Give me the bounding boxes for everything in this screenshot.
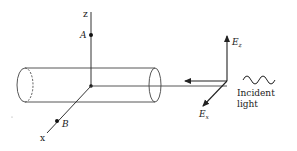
cylinder (17, 68, 161, 102)
incident-light-label-line1: Incident (237, 88, 275, 98)
incident-light-label-line2: light (237, 99, 258, 109)
x-axis-label: x (40, 133, 45, 143)
z-axis-label: z (83, 9, 88, 19)
speck (11, 116, 12, 117)
ez-label: Ez (231, 37, 243, 48)
point-a (89, 33, 93, 37)
ex-arrow (203, 81, 227, 106)
point-b (55, 119, 59, 123)
wave-icon (243, 76, 275, 84)
x-axis (47, 86, 91, 133)
point-a-label: A (79, 30, 87, 40)
light-scattering-diagram: z A x B Ez Ex Incident light (0, 0, 297, 151)
point-b-label: B (61, 119, 69, 129)
ex-label: Ex (198, 109, 210, 120)
